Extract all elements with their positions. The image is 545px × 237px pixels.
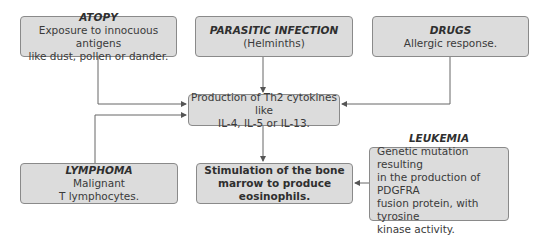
node-th2-cytokines: Production of Th2 cytokines like IL-4, I… [188, 94, 340, 126]
node-text: kinase activity. [370, 223, 508, 236]
node-text: like dust, pollen or dander. [21, 50, 176, 63]
node-leukemia: LEUKEMIA Genetic mutation resulting in t… [369, 147, 509, 221]
node-title: PARASITIC INFECTION [196, 24, 352, 37]
node-text: in the production of PDGFRA [370, 171, 508, 197]
edge-drugs-th2 [342, 56, 450, 104]
node-text: T lymphocytes. [21, 190, 177, 203]
node-drugs: DRUGS Allergic response. [372, 16, 529, 57]
node-text: Production of Th2 cytokines like [189, 91, 339, 117]
node-text: (Helminths) [196, 37, 352, 50]
node-bone-marrow-stimulation: Stimulation of the bone marrow to produc… [196, 163, 353, 204]
edge-atopy-th2 [98, 56, 186, 104]
node-text: IL-4, IL-5 or IL-13. [189, 117, 339, 130]
node-title: LEUKEMIA [370, 132, 508, 145]
node-title: DRUGS [373, 24, 528, 37]
node-text: fusion protein, with tyrosine [370, 197, 508, 223]
node-title: LYMPHOMA [21, 164, 177, 177]
node-text: Stimulation of the bone [197, 164, 352, 177]
node-text: Genetic mutation resulting [370, 145, 508, 171]
node-parasitic-infection: PARASITIC INFECTION (Helminths) [195, 16, 353, 57]
node-text: Malignant [21, 177, 177, 190]
node-text: marrow to produce eosinophils. [197, 177, 352, 203]
node-lymphoma: LYMPHOMA Malignant T lymphocytes. [20, 163, 178, 204]
node-text: Exposure to innocuous antigens [21, 24, 176, 50]
node-atopy: ATOPY Exposure to innocuous antigens lik… [20, 16, 177, 57]
node-text: Allergic response. [373, 37, 528, 50]
edge-lymphoma-th2 [95, 115, 186, 163]
node-title: ATOPY [21, 11, 176, 24]
